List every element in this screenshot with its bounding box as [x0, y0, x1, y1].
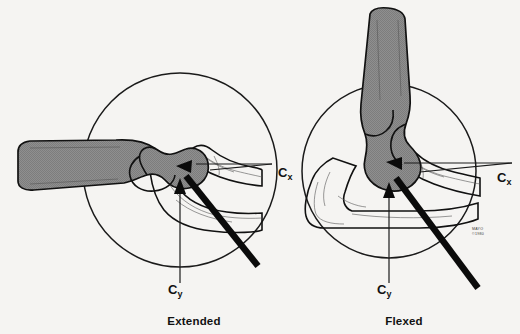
- mayo-line-2: ©1980: [472, 232, 484, 236]
- mayo-copyright-mark: MAYO ©1980: [472, 227, 484, 236]
- elbow-kinematics-figure: Cx Cy Extended: [0, 0, 520, 334]
- mayo-line-1: MAYO: [472, 227, 483, 231]
- caption-extended: Extended: [167, 315, 220, 327]
- caption-flexed: Flexed: [385, 315, 423, 327]
